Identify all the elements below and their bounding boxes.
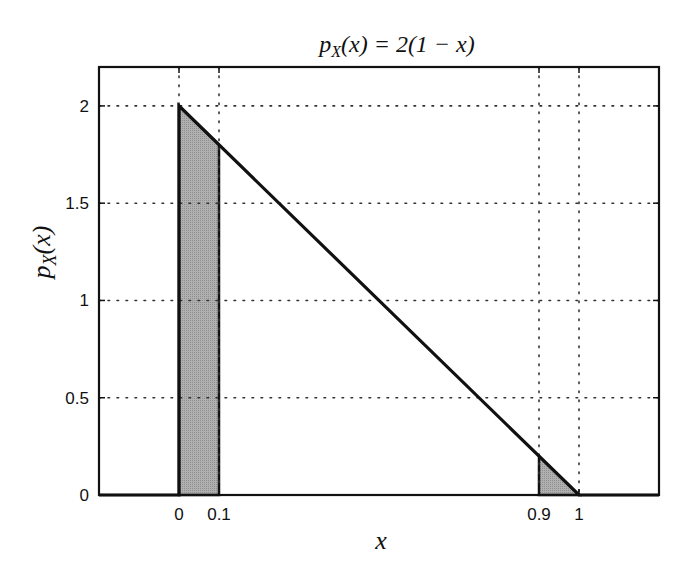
chart-title: pX(x) = 2(1 − x) — [317, 31, 474, 60]
y-tick-label: 1.5 — [65, 194, 89, 213]
y-tick-label: 2 — [80, 97, 89, 116]
x-tick-label: 0.1 — [207, 505, 231, 524]
x-tick-label: 1 — [574, 505, 583, 524]
x-tick-label: 0 — [174, 505, 183, 524]
x-tick-label: 0.9 — [527, 505, 551, 524]
y-tick-label: 1 — [80, 291, 89, 310]
plot-area: 00.10.9100.511.52 — [65, 67, 659, 524]
y-tick-label: 0 — [80, 486, 89, 505]
y-axis-label: pX(x) — [27, 226, 60, 281]
y-tick-label: 0.5 — [65, 389, 89, 408]
chart: 00.10.9100.511.52 pX(x) = 2(1 − x) x pX(… — [0, 0, 696, 575]
x-axis-label: x — [374, 526, 387, 555]
